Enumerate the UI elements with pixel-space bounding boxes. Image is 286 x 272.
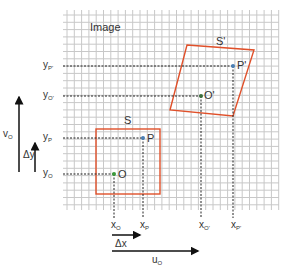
point-p-prime [231,64,235,68]
point-o-label: O [118,168,127,180]
svg-text:yO': yO' [43,89,54,101]
point-o-prime-label: O' [204,89,215,101]
svg-text:xO': xO' [199,219,210,231]
point-o-prime [199,94,203,98]
shape-s-prime-label: S' [216,35,225,47]
y-axis-labels: yP' yO' yP yO [43,59,54,179]
point-p-label: P [147,132,154,144]
svg-text:xP': xP' [231,219,241,231]
shape-s-label: S [124,114,131,126]
x-axis-labels: xO xP xO' xP' [111,219,241,231]
delta-x-label: Δx [115,238,127,249]
svg-text:xO: xO [111,219,121,231]
diagram-canvas: Image S S' O P O' P' yP' yO' yP yO xO xP… [0,0,286,272]
svg-text:yP': yP' [43,59,53,71]
svg-text:uO: uO [152,254,163,266]
svg-text:yP: yP [43,131,52,143]
delta-y-label: Δy [23,149,35,160]
svg-text:vO: vO [3,128,13,140]
grid-label: Image [90,21,121,33]
point-p-prime-label: P' [237,59,246,71]
svg-text:yO: yO [43,167,53,179]
point-o [112,172,116,176]
point-p [141,136,145,140]
svg-text:xP: xP [140,219,149,231]
